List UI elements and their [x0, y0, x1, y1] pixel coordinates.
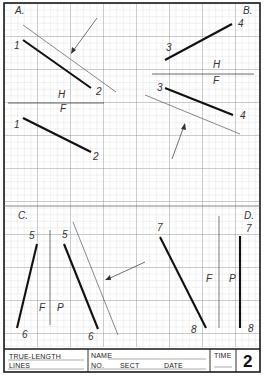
plane-h-a: H — [58, 90, 65, 100]
plane-f-d: F — [206, 274, 212, 284]
point-4-top: 4 — [238, 19, 244, 29]
point-6-left: 6 — [22, 330, 28, 340]
date-label: DATE — [164, 362, 183, 369]
point-4-bottom: 4 — [240, 111, 246, 121]
point-3-top: 3 — [166, 43, 172, 53]
point-1-bottom: 1 — [14, 120, 20, 130]
plane-p-c: P — [57, 303, 64, 313]
plane-f-c: F — [39, 303, 45, 313]
problem-a-label: A. — [15, 6, 24, 16]
point-5-left: 5 — [29, 231, 35, 241]
point-2-top: 2 — [96, 87, 102, 97]
name-label: NAME — [91, 352, 112, 359]
title-line-2: LINES — [9, 362, 30, 369]
plane-p-d: P — [229, 274, 236, 284]
point-1-top: 1 — [14, 41, 20, 51]
point-7-right: 7 — [246, 224, 252, 234]
title-line-1: TRUE-LENGTH — [9, 353, 61, 360]
sheet-number: 2 — [243, 353, 252, 370]
sect-label: SECT — [120, 362, 139, 369]
plane-f-b: F — [213, 76, 219, 86]
point-2-bottom: 2 — [93, 152, 99, 162]
problem-c-label: C. — [18, 211, 28, 221]
point-8-right: 8 — [248, 324, 254, 334]
no-label: NO. — [91, 362, 104, 369]
problem-b-label: B. — [243, 6, 252, 16]
point-6-right: 6 — [88, 332, 94, 342]
plane-f-a: F — [60, 104, 66, 114]
problem-d-label: D. — [244, 211, 254, 221]
point-3-bottom: 3 — [157, 83, 163, 93]
point-7-left: 7 — [157, 223, 163, 233]
point-8-left: 8 — [191, 325, 197, 335]
drawing-sheet — [0, 0, 264, 377]
point-5-right: 5 — [62, 230, 68, 240]
plane-h-b: H — [213, 60, 220, 70]
time-label: TIME — [214, 352, 232, 359]
